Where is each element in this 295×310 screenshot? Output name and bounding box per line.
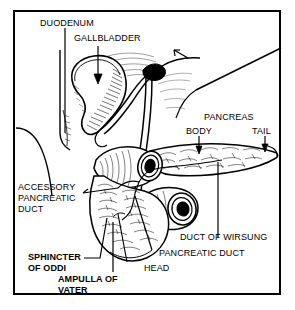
label-duct-of-wirsung: DUCT OF WIRSUNG — [180, 232, 267, 243]
liver-surface-stroke-2 — [112, 58, 156, 62]
label-pancreatic-duct: PANCREATIC DUCT — [159, 248, 245, 259]
hepatic-duct-branch-line — [162, 58, 200, 66]
upper-right-lower-line — [176, 90, 196, 118]
hepatic-duct-junction-group — [143, 58, 200, 81]
label-tail: TAIL — [252, 126, 271, 137]
label-pancreas: PANCREAS — [204, 112, 254, 123]
label-duodenum: DUODENUM — [40, 18, 94, 29]
upper-right-long-line — [196, 48, 281, 90]
label-sphincter-of-oddi-line1: SPHINCTER — [28, 252, 81, 263]
top-right-pointer-arrow — [174, 50, 188, 58]
anatomy-figure-screenshot: DUODENUM GALLBLADDER PANCREAS BODY TAIL … — [0, 0, 295, 310]
liver-surface-stroke-1 — [108, 53, 154, 57]
gallbladder-outline — [72, 56, 126, 135]
label-gallbladder: GALLBLADDER — [74, 33, 141, 44]
label-sphincter-of-oddi-line2: OF ODDI — [28, 263, 66, 274]
gallbladder-group — [72, 56, 126, 135]
label-accessory-pancreatic-duct-line1: ACCESSORY — [18, 182, 75, 193]
label-head: HEAD — [144, 263, 169, 274]
label-ampulla-of-vater-line2: VATER — [58, 285, 88, 296]
hepatic-duct-junction-mass — [143, 64, 166, 81]
label-accessory-pancreatic-duct-line2: PANCREATIC — [18, 193, 76, 204]
label-body: BODY — [186, 126, 212, 137]
left-tissue-group — [63, 110, 71, 146]
upper-right-faint-texture — [158, 73, 192, 109]
liver-edge-group — [16, 50, 70, 196]
label-ampulla-of-vater-line1: AMPULLA OF — [58, 274, 118, 285]
pancreas-body-tail-group — [150, 144, 278, 176]
label-accessory-pancreatic-duct-line3: DUCT — [18, 204, 43, 215]
